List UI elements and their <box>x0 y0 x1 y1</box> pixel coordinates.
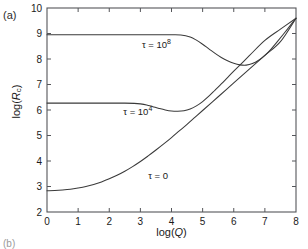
x-tick-label: 1 <box>75 216 81 227</box>
curve-annotation: τ = 104 <box>123 105 152 117</box>
y-tick-label: 9 <box>36 28 42 39</box>
x-tick-label: 6 <box>231 216 237 227</box>
chart-canvas: 0123456782345678910 τ = 108τ = 104τ = 0 <box>0 0 308 249</box>
y-tick-label: 4 <box>36 156 42 167</box>
y-tick-label: 8 <box>36 54 42 65</box>
x-tick-label: 5 <box>200 216 206 227</box>
y-tick-label: 3 <box>36 181 42 192</box>
plot-frame <box>47 8 296 212</box>
y-tick-label: 10 <box>31 3 43 14</box>
y-tick-label: 7 <box>36 79 42 90</box>
axis-ticks <box>47 8 296 212</box>
y-tick-label: 6 <box>36 105 42 116</box>
data-curves <box>47 18 296 191</box>
curve-tau-10-8 <box>47 18 296 65</box>
x-tick-label: 3 <box>138 216 144 227</box>
curve-annotation: τ = 0 <box>148 170 168 181</box>
x-tick-label: 2 <box>106 216 112 227</box>
curve-tau-0 <box>47 18 296 191</box>
x-tick-label: 4 <box>169 216 175 227</box>
x-tick-label: 8 <box>293 216 299 227</box>
curve-annotation: τ = 108 <box>142 38 171 50</box>
curve-tau-10-4 <box>47 18 296 111</box>
x-tick-label: 0 <box>44 216 50 227</box>
figure-panel-a: (a) (b) log(Rc) log(Q) 01234567823456789… <box>0 0 308 249</box>
x-tick-label: 7 <box>262 216 268 227</box>
axis-tick-labels: 0123456782345678910 <box>31 3 299 228</box>
y-tick-label: 5 <box>36 130 42 141</box>
y-tick-label: 2 <box>36 207 42 218</box>
